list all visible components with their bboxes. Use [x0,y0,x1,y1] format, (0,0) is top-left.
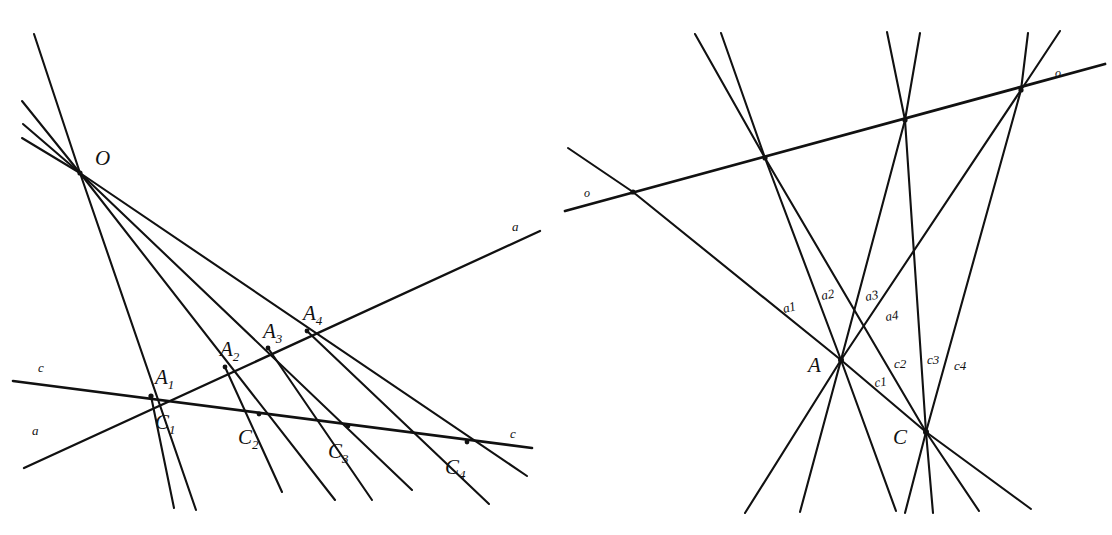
label-C2-base: C [238,425,253,449]
label-point-A4: A4 [301,301,323,328]
left-upper-ray-group [22,34,80,173]
label-C4-base: C [445,455,460,479]
label-point-C1: C1 [155,410,176,437]
upper-ray-from-o1 [568,148,633,192]
label-group-a-lines: a1 a2 a3 a4 [781,286,900,324]
C-lower-ray-3 [926,432,979,511]
label-line-o-right-end: o [1055,66,1061,80]
label-C4-sub: 4 [459,467,466,482]
upper-ray-from-o2-b [721,33,765,158]
upper-ray-from-o3-a [887,32,905,120]
C-lower-ray-2 [926,432,933,513]
label-C3-base: C [328,439,343,463]
left-panel: O c c a a A1 A2 A3 A4 [13,34,540,510]
label-line-c1: c1 [873,373,887,390]
line-c4 [926,90,1021,432]
ray-up-4 [22,138,80,173]
label-A4-base: A [301,301,316,325]
label-A2-base: A [218,337,233,361]
label-group-A-points: A1 A2 A3 A4 [153,301,323,392]
figure-canvas: O c c a a A1 A2 A3 A4 [0,0,1112,535]
connector-A2-down [225,367,282,492]
point-o2-marker [762,155,767,160]
label-point-A1: A1 [153,365,174,392]
label-point-A3: A3 [261,319,283,346]
right-panel: A C o o a1 a2 a3 a4 c1 c2 c3 c4 [565,31,1105,513]
C-lower-ray-4 [926,432,1031,509]
point-C2-marker [257,412,262,417]
point-A4-marker [305,329,310,334]
label-C1-sub: 1 [169,422,176,437]
label-C2-sub: 2 [252,437,259,452]
label-line-c3: c3 [927,352,940,367]
point-C3-marker [346,424,351,429]
label-line-c-right-end: c [510,426,516,441]
point-O-marker [77,170,82,175]
A-lower-ray-2 [800,360,841,512]
upper-ray-from-o2-a [695,34,765,158]
point-C4-marker [465,440,470,445]
label-line-a2: a2 [820,286,836,303]
label-A3-sub: 3 [275,331,283,346]
label-line-a1: a1 [781,298,797,316]
point-o4-marker [1018,87,1023,92]
point-o1-marker [630,189,635,194]
connector-A3-down [268,348,372,500]
label-line-a-left-end: a [32,423,39,438]
point-A2-marker [223,365,228,370]
ray-O-through-A1 [80,173,196,510]
label-C1-base: C [155,410,170,434]
line-a3 [841,120,905,360]
right-lower-rays-A [745,360,896,513]
point-o3-marker [902,117,907,122]
label-A1-sub: 1 [168,377,175,392]
label-line-c4: c4 [954,358,967,373]
A-lower-ray-1 [745,360,841,513]
label-line-a3: a3 [864,287,880,304]
label-point-C4: C4 [445,455,466,482]
label-point-C-right: C [893,425,908,449]
line-c2 [765,158,926,432]
label-group-C-points: C1 C2 C3 C4 [155,410,466,482]
point-A3-marker [266,346,271,351]
label-line-a4: a4 [884,307,899,324]
right-upper-ray-group [568,31,1060,192]
left-lower-ray-group [80,173,527,510]
label-point-A-right: A [806,353,821,377]
geometry-figure: O c c a a A1 A2 A3 A4 [0,0,1112,535]
label-A3-base: A [261,319,276,343]
C-lower-ray-1 [905,432,926,513]
right-lower-rays-C [905,432,1031,513]
ray-O-through-A2 [80,173,335,500]
label-point-C2: C2 [238,425,259,452]
label-point-A2: A2 [218,337,240,364]
point-A-marker [838,357,844,363]
ray-up-2 [22,101,80,173]
label-A1-base: A [153,365,168,389]
label-line-c-left-end: c [38,360,44,375]
point-C-marker [923,429,929,435]
pencil-at-A [633,90,1021,360]
point-A1-marker [148,393,153,398]
label-C3-sub: 3 [341,451,349,466]
label-A2-sub: 2 [233,349,240,364]
label-line-o-left-end: o [584,186,590,200]
label-A4-sub: 4 [316,313,323,328]
line-c3 [905,120,926,432]
line-a4 [841,90,1021,360]
upper-ray-from-o3-b [905,33,920,120]
label-line-a-right-end: a [512,219,519,234]
label-point-C3: C3 [328,439,349,466]
label-line-c2: c2 [894,356,907,371]
label-point-O: O [95,146,110,170]
